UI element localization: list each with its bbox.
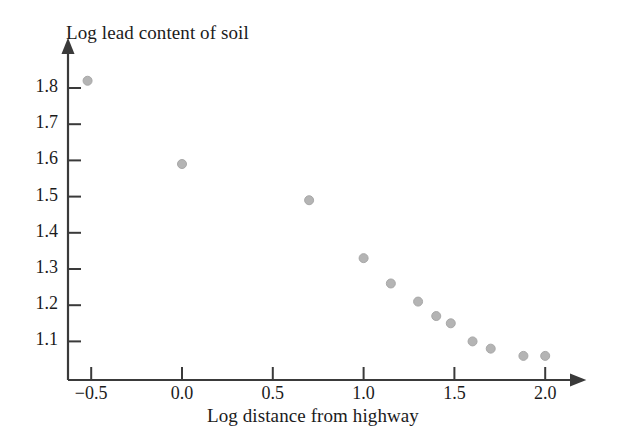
- x-tick-label: 2.0: [515, 383, 575, 404]
- x-tick-label: 0.5: [243, 383, 303, 404]
- x-tick-label: −0.5: [61, 383, 121, 404]
- scatter-plot-figure: Log lead content of soil Log distance fr…: [0, 0, 622, 445]
- data-point: [83, 76, 92, 85]
- y-tick-label: 1.6: [14, 148, 58, 169]
- y-tick-label: 1.4: [14, 221, 58, 242]
- data-point: [359, 254, 368, 263]
- data-point: [432, 312, 441, 321]
- y-axis-title: Log lead content of soil: [66, 22, 249, 44]
- y-tick-label: 1.8: [14, 76, 58, 97]
- data-point: [519, 351, 528, 360]
- x-tick-label: 1.5: [424, 383, 484, 404]
- data-point: [446, 319, 455, 328]
- x-axis-title: Log distance from highway: [207, 405, 419, 427]
- data-point: [541, 351, 550, 360]
- plot-canvas: [0, 0, 622, 445]
- data-point: [486, 344, 495, 353]
- y-tick-label: 1.7: [14, 112, 58, 133]
- data-point: [468, 337, 477, 346]
- data-point: [178, 160, 187, 169]
- tick-marks-group: [68, 88, 545, 380]
- x-tick-label: 0.0: [152, 383, 212, 404]
- data-point: [414, 297, 423, 306]
- y-tick-label: 1.5: [14, 185, 58, 206]
- y-tick-label: 1.2: [14, 293, 58, 314]
- y-tick-label: 1.3: [14, 257, 58, 278]
- y-tick-label: 1.1: [14, 329, 58, 350]
- data-point: [386, 279, 395, 288]
- x-tick-label: 1.0: [334, 383, 394, 404]
- data-points-group: [83, 76, 550, 360]
- data-point: [305, 196, 314, 205]
- axes-group: [68, 52, 572, 380]
